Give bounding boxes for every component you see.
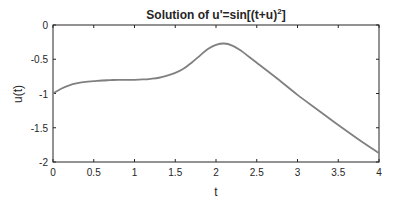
y-tick-label: -1 [39,89,48,100]
x-tick-label: 1 [132,167,138,178]
plot-area: 00.511.522.533.540-0.5-1-1.5-2 [31,20,382,178]
y-axis-label: u(t) [11,85,25,103]
y-tick-label: 0 [42,20,48,31]
x-tick-label: 1.5 [168,167,182,178]
chart-title: Solution of u'=sin[(t+u)2] [146,7,285,22]
y-tick-label: -0.5 [31,54,49,65]
x-tick-label: 2 [213,167,219,178]
x-tick-label: 3.5 [331,167,345,178]
x-tick-label: 4 [376,167,382,178]
x-tick-label: 0 [50,167,56,178]
x-tick-label: 0.5 [87,167,101,178]
y-tick-label: -2 [39,157,48,168]
x-axis-label: t [214,185,218,199]
x-tick-label: 2.5 [250,167,264,178]
chart: Solution of u'=sin[(t+u)2] 00.511.522.53… [0,0,393,204]
x-tick-label: 3 [295,167,301,178]
y-tick-label: -1.5 [31,123,49,134]
